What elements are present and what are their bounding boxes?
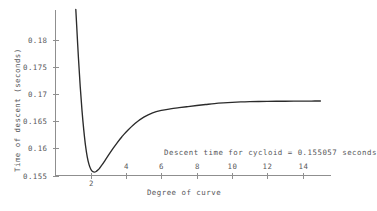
x-tick-label: 10 [218, 163, 248, 170]
x-tick-label: 6 [147, 163, 177, 170]
y-tick-label: 0.16 [0, 145, 48, 152]
y-axis-title: Time of descent (seconds) [13, 48, 22, 172]
cycloid-descent-time-annotation: Descent time for cycloid = 0.155057 seco… [164, 148, 377, 157]
x-tick-label: 4 [112, 163, 142, 170]
x-tick-label: 12 [253, 163, 283, 170]
x-tick-label: 2 [77, 180, 107, 187]
x-tick-label: 8 [183, 163, 213, 170]
y-tick-label: 0.165 [0, 118, 48, 125]
y-tick-label: 0.17 [0, 91, 48, 98]
y-tick-label: 0.18 [0, 37, 48, 44]
y-tick-label: 0.175 [0, 64, 48, 71]
x-tick-label: 14 [289, 163, 319, 170]
x-axis-title: Degree of curve [0, 188, 368, 197]
y-tick-label: 0.155 [0, 173, 48, 180]
